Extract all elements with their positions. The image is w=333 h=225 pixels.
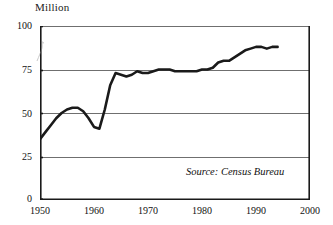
ytick-label-25: 25 — [6, 151, 32, 162]
ytick-label-100: 100 — [6, 20, 32, 31]
xtick-label-1960: 1960 — [74, 205, 114, 216]
data-series-line — [40, 47, 278, 139]
xtick-label-2000: 2000 — [290, 205, 330, 216]
xtick-label-1980: 1980 — [182, 205, 222, 216]
xtick-label-1970: 1970 — [128, 205, 168, 216]
ytick-label-0: 0 — [6, 193, 32, 204]
source-note: Source: Census Bureau — [186, 166, 284, 177]
xtick-label-1990: 1990 — [236, 205, 276, 216]
pencil-smudge-mark — [36, 40, 45, 62]
y-axis-unit-label: Million — [35, 1, 69, 13]
xtick-label-1950: 1950 — [20, 205, 60, 216]
line-chart: Million — [0, 0, 333, 225]
ytick-label-75: 75 — [6, 64, 32, 75]
gridlines — [40, 27, 310, 158]
ytick-label-50: 50 — [6, 108, 32, 119]
